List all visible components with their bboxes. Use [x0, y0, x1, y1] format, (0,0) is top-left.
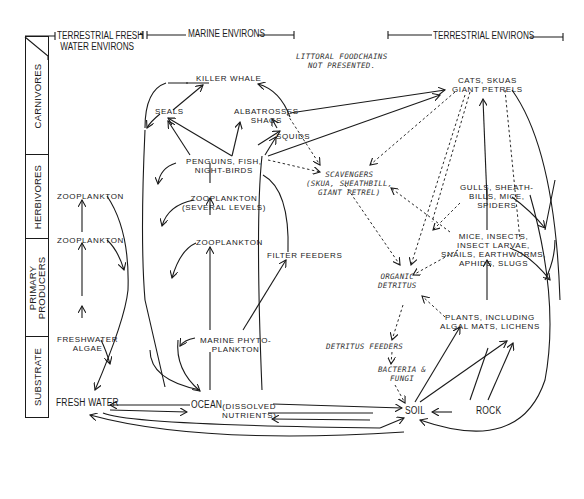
node-dissolved-nutrients: (DISSOLVED NUTRIENTS)	[222, 402, 276, 420]
node-albatrosses-line2: SHAGS	[234, 116, 299, 125]
node-detritus-feeders: DETRITUS FEEDERS	[326, 342, 403, 351]
node-zooplankton-several-levels: ZOOPLANKTON (SEVERAL LEVELS)	[182, 194, 266, 212]
node-squids: SQUIDS	[276, 132, 310, 141]
note-line2: NOT PRESENTED.	[296, 61, 388, 70]
node-marine-phytoplankton: MARINE PHYTO- PLANKTON	[200, 336, 271, 354]
node-dissolved-line1: (DISSOLVED	[222, 402, 276, 411]
node-organic-detritus: ORGANIC DETRITUS	[378, 272, 417, 290]
node-zoo-several-line2: (SEVERAL LEVELS)	[182, 203, 266, 212]
node-phyto-line1: MARINE PHYTO-	[200, 336, 271, 345]
food-web-diagram: CARNIVORES HERBIVORES PRIMARY PRODUCERS …	[0, 0, 584, 499]
header-terrestrial-fresh-water: TERRESTRIAL FRESH WATER ENVIRONS	[57, 30, 143, 52]
note-littoral: LITTORAL FOODCHAINS NOT PRESENTED.	[296, 52, 388, 70]
node-bacteria-fungi: BACTERIA & FUNGI	[378, 365, 426, 383]
node-mice-insects: MICE, INSECTS, INSECT LARVAE, SNAILS, EA…	[441, 232, 546, 268]
node-ocean: OCEAN	[191, 400, 222, 409]
node-cats-line2: GIANT PETRELS	[452, 85, 523, 94]
node-gulls-line2: BILLS, MICE,	[460, 192, 534, 201]
node-mice-line3: SNAILS, EARTHWORMS,	[441, 250, 546, 259]
node-seals: SEALS	[155, 107, 184, 116]
node-filter-feeders: FILTER FEEDERS	[267, 251, 342, 260]
header-marine-environs: MARINE ENVIRONS	[188, 28, 265, 39]
node-cats-skuas-giant-petrels: CATS, SKUAS GIANT PETRELS	[452, 76, 523, 94]
node-scavengers-line2: (SKUA, SHEATHBILL,	[306, 179, 393, 188]
node-soil: SOIL	[405, 406, 425, 415]
node-penguins-fish-nightbirds: PENGUINS, FISH, NIGHT-BIRDS	[186, 157, 262, 175]
node-plants-line1: PLANTS, INCLUDING	[440, 313, 540, 322]
node-fw-zooplankton-mid: ZOOPLANKTON	[57, 236, 124, 245]
header-terrestrial-environs: TERRESTRIAL ENVIRONS	[433, 30, 534, 41]
node-scavengers-line3: GIANT PETREL)	[306, 188, 393, 197]
node-fw-zooplankton-top: ZOOPLANKTON	[57, 192, 124, 201]
node-gulls-line3: SPIDERS	[460, 201, 534, 210]
node-organic-line1: ORGANIC	[378, 272, 417, 281]
node-scavengers: SCAVENGERS (SKUA, SHEATHBILL, GIANT PETR…	[306, 170, 393, 197]
node-bacteria-line2: FUNGI	[378, 374, 426, 383]
node-fw-algae-line1: FRESHWATER	[57, 335, 118, 344]
node-albatrosses-shags: ALBATROSSES SHAGS	[234, 107, 299, 125]
node-penguins-line2: NIGHT-BIRDS	[186, 166, 262, 175]
node-marine-zooplankton: ZOOPLANKTON	[196, 238, 263, 247]
node-dissolved-line2: NUTRIENTS)	[222, 411, 276, 420]
node-mice-line1: MICE, INSECTS,	[441, 232, 546, 241]
node-zoo-several-line1: ZOOPLANKTON	[182, 194, 266, 203]
node-killer-whale: KILLER WHALE	[196, 74, 261, 83]
node-plants-line2: ALGAL MATS, LICHENS	[440, 322, 540, 331]
node-bacteria-line1: BACTERIA &	[378, 365, 426, 374]
node-albatrosses-line1: ALBATROSSES	[234, 107, 299, 116]
note-line1: LITTORAL FOODCHAINS	[296, 52, 388, 61]
node-rock: ROCK	[476, 406, 501, 415]
node-gulls-line1: GULLS, SHEATH-	[460, 183, 534, 192]
node-fw-algae-line2: ALGAE	[57, 344, 118, 353]
node-cats-line1: CATS, SKUAS	[452, 76, 523, 85]
node-mice-line4: APHIDS, SLUGS	[441, 259, 546, 268]
node-scavengers-line1: SCAVENGERS	[306, 170, 393, 179]
node-phyto-line2: PLANKTON	[200, 345, 271, 354]
node-penguins-line1: PENGUINS, FISH,	[186, 157, 262, 166]
node-mice-line2: INSECT LARVAE,	[441, 241, 546, 250]
header-tfw-line2: WATER ENVIRONS	[57, 41, 143, 52]
header-tfw-line1: TERRESTRIAL FRESH	[57, 30, 143, 41]
node-freshwater-algae: FRESHWATER ALGAE	[57, 335, 118, 353]
node-plants-algal-mats-lichens: PLANTS, INCLUDING ALGAL MATS, LICHENS	[440, 313, 540, 331]
node-gulls-sheathbills: GULLS, SHEATH- BILLS, MICE, SPIDERS	[460, 183, 534, 210]
node-fresh-water: FRESH WATER	[56, 398, 119, 407]
node-organic-line2: DETRITUS	[378, 281, 417, 290]
